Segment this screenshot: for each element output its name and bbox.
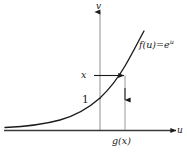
exponential-function-figure: v u x 1 g(x) f(u)=eu	[0, 0, 187, 159]
function-equals: =	[156, 39, 164, 50]
v-axis-label: v	[96, 2, 101, 11]
function-exponent: u	[170, 38, 174, 46]
figure-canvas	[0, 0, 187, 159]
exponential-curve	[5, 31, 144, 128]
unit-intercept-label: 1	[82, 94, 89, 105]
gx-label: g(x)	[112, 136, 131, 146]
function-name: f(u)	[139, 39, 156, 50]
u-axis-label: u	[177, 126, 183, 135]
function-label: f(u)=eu	[139, 39, 174, 50]
x-value-label: x	[81, 70, 86, 80]
